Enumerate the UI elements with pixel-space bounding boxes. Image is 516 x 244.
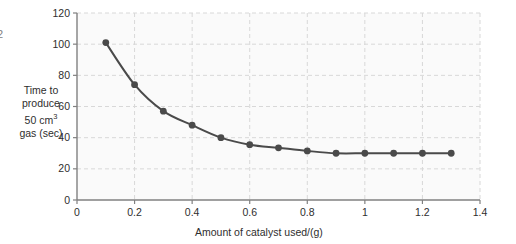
cropped-edge-glyph: 2 [0, 28, 2, 40]
y-tick-label: 100 [52, 38, 70, 50]
data-point [304, 148, 311, 155]
y-tick-label: 0 [64, 194, 70, 206]
data-point [390, 150, 397, 157]
x-axis-label: Amount of catalyst used/(g) [195, 226, 323, 238]
chart-figure: 2 Time to produce 50 cm3 gas (sec) Amoun… [0, 0, 516, 244]
data-point [361, 150, 368, 157]
data-point [131, 81, 138, 88]
x-tick-label: 0 [74, 206, 80, 218]
data-point [246, 141, 253, 148]
y-axis-label: Time to produce 50 cm3 gas (sec) [12, 84, 70, 140]
data-point [189, 122, 196, 129]
x-tick-label: 1 [362, 206, 368, 218]
x-tick-labels: 00.20.40.60.811.21.4 [74, 206, 487, 218]
plot-background [77, 13, 480, 200]
y-axis-label-line-1: Time to [24, 84, 59, 96]
y-tick-label: 80 [58, 69, 70, 81]
y-axis-label-superscript: 3 [53, 112, 57, 121]
data-point [275, 144, 282, 151]
x-tick-label: 0.8 [300, 206, 315, 218]
data-point [160, 108, 167, 115]
y-axis-label-line-4: gas (sec) [19, 127, 62, 139]
data-point [218, 134, 225, 141]
y-tick-label: 20 [58, 162, 70, 174]
data-point [102, 39, 109, 46]
x-tick-label: 1.4 [473, 206, 488, 218]
x-tick-label: 0.6 [242, 206, 257, 218]
y-tick-label: 120 [52, 7, 70, 19]
x-tick-label: 1.2 [415, 206, 430, 218]
data-point [448, 150, 455, 157]
data-point [333, 150, 340, 157]
x-tick-label: 0.4 [185, 206, 200, 218]
x-tick-label: 0.2 [127, 206, 142, 218]
data-point [419, 150, 426, 157]
y-axis-label-line-2: produce [22, 97, 60, 109]
y-axis-label-line-3: 50 cm [25, 114, 54, 126]
chart-canvas: 020406080100120 00.20.40.60.811.21.4 [0, 0, 516, 244]
